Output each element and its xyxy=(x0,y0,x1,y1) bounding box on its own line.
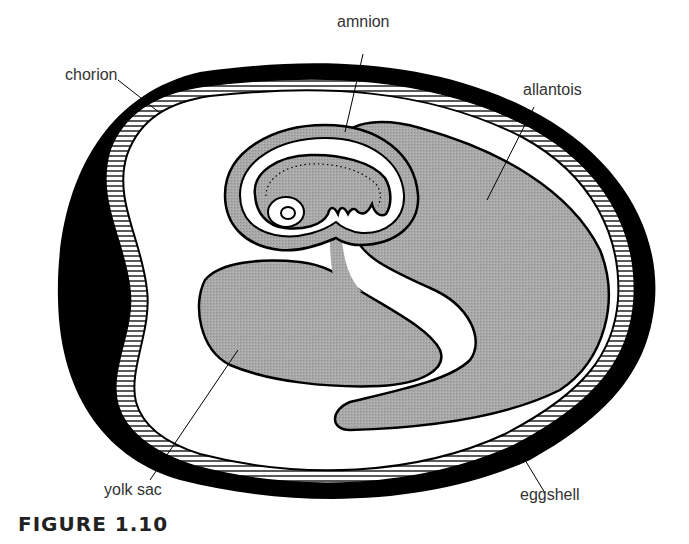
label-eggshell: eggshell xyxy=(520,486,580,504)
label-yolk-sac: yolk sac xyxy=(104,481,162,499)
label-allantois: allantois xyxy=(523,81,582,99)
figure-caption: FIGURE 1.10 xyxy=(18,512,168,536)
label-chorion: chorion xyxy=(65,66,117,84)
embryo-eye-inner xyxy=(281,207,295,219)
label-amnion: amnion xyxy=(337,13,389,31)
